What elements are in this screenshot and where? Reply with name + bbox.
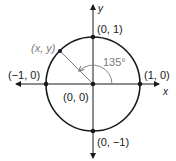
point-right xyxy=(138,82,143,87)
label-right: (1, 0) xyxy=(144,69,170,81)
angle-label: 135° xyxy=(103,56,126,68)
terminal-side-ray xyxy=(60,51,93,84)
x-axis-label: x xyxy=(162,86,169,97)
label-terminal: (x, y) xyxy=(31,42,56,54)
label-bottom: (0, −1) xyxy=(97,136,129,148)
point-bottom xyxy=(91,129,96,134)
label-origin: (0, 0) xyxy=(63,91,89,103)
point-top xyxy=(91,35,96,40)
y-axis-label: y xyxy=(97,3,104,14)
label-top: (0, 1) xyxy=(97,23,123,35)
label-left: (−1, 0) xyxy=(8,69,40,81)
unit-circle-diagram: y x (0, 1) (1, 0) (−1, 0) (0, −1) (0, 0)… xyxy=(0,0,176,161)
point-left xyxy=(44,82,49,87)
point-origin xyxy=(91,82,96,87)
point-terminal xyxy=(58,49,62,53)
